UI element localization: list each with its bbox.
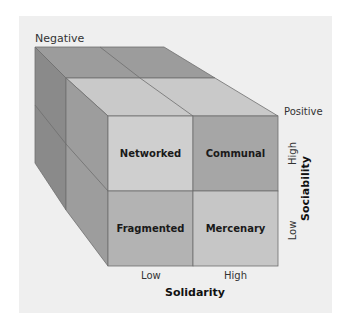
y-axis-title: Sociability xyxy=(299,154,312,224)
depth-label-positive: Positive xyxy=(284,106,323,117)
cell-label-networked: Networked xyxy=(108,148,193,159)
cell-label-mercenary: Mercenary xyxy=(193,223,278,234)
x-tick-high: High xyxy=(224,270,247,281)
cell-label-fragmented: Fragmented xyxy=(108,223,193,234)
x-tick-low: Low xyxy=(141,270,161,281)
y-tick-high: High xyxy=(287,139,298,169)
x-axis-title: Solidarity xyxy=(165,286,225,299)
cell-label-communal: Communal xyxy=(193,148,278,159)
y-tick-low: Low xyxy=(287,216,298,246)
depth-label-negative: Negative xyxy=(35,32,84,45)
back-top-face xyxy=(35,47,215,78)
